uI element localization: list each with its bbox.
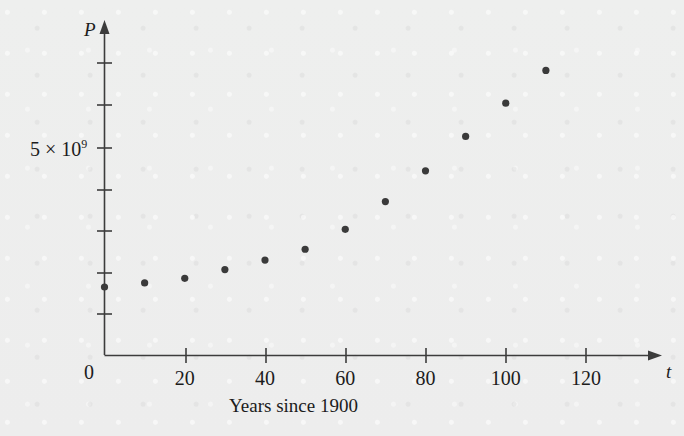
- data-point: [462, 133, 469, 140]
- data-point: [221, 266, 228, 273]
- x-axis-arrowhead: [648, 351, 662, 361]
- y-axis-title: P: [84, 20, 96, 39]
- x-axis-tick-label: 100: [491, 368, 521, 388]
- x-axis-tick-label: 80: [416, 368, 436, 388]
- data-point: [502, 100, 509, 107]
- data-point: [542, 67, 549, 74]
- x-axis-tick-label: 20: [175, 368, 195, 388]
- data-point: [302, 246, 309, 253]
- origin-label: 0: [84, 362, 94, 382]
- data-point: [261, 256, 268, 263]
- y-axis-tick-label: 5 × 109: [30, 138, 87, 159]
- x-axis-title: t: [666, 362, 671, 381]
- data-point: [342, 226, 349, 233]
- figure-caption: Years since 1900: [229, 396, 358, 415]
- y-axis: [97, 20, 112, 355]
- data-point: [141, 279, 148, 286]
- y-tick-mantissa: 5 × 10: [30, 138, 81, 160]
- x-axis-tick-label: 60: [335, 368, 355, 388]
- x-axis-tick-label: 120: [571, 368, 601, 388]
- data-point: [382, 198, 389, 205]
- x-axis: [105, 348, 663, 363]
- y-tick-exponent: 9: [81, 137, 87, 151]
- data-point: [422, 167, 429, 174]
- x-axis-tick-label: 40: [255, 368, 275, 388]
- y-axis-arrowhead: [100, 20, 110, 34]
- data-point: [101, 283, 108, 290]
- data-point-series: [101, 67, 550, 291]
- data-point: [181, 275, 188, 282]
